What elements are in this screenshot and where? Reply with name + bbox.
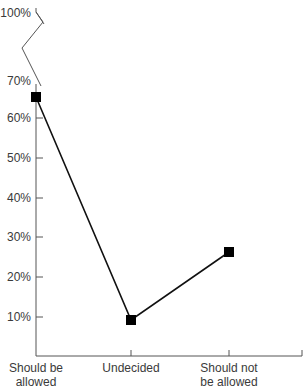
category-label: Undecided [102,361,159,375]
line-chart: 10% 20% 30% 40% 50% 60% 70% 100% Should … [0,0,307,390]
y-tick-label: 30% [7,230,31,244]
data-point-should-be-allowed [31,92,41,102]
y-tick-label: 100% [0,6,31,20]
y-ticks [36,118,43,317]
data-point-should-not-be-allowed [224,247,234,257]
y-tick-label: 50% [7,151,31,165]
category-label: Should not [200,361,258,375]
x-axis [36,350,302,356]
category-label: Should be [9,361,63,375]
category-label: be allowed [200,375,257,389]
y-tick-label: 60% [7,111,31,125]
category-label: allowed [16,375,57,389]
y-axis [22,8,44,356]
x-category-labels: Should be allowed Undecided Should not b… [9,361,258,389]
y-tick-label: 40% [7,191,31,205]
series-line [36,97,229,320]
data-point-undecided [126,315,136,325]
y-tick-label: 20% [7,270,31,284]
y-tick-label: 70% [7,74,31,88]
y-tick-labels: 10% 20% 30% 40% 50% 60% 70% 100% [0,6,31,324]
y-tick-label: 10% [7,310,31,324]
